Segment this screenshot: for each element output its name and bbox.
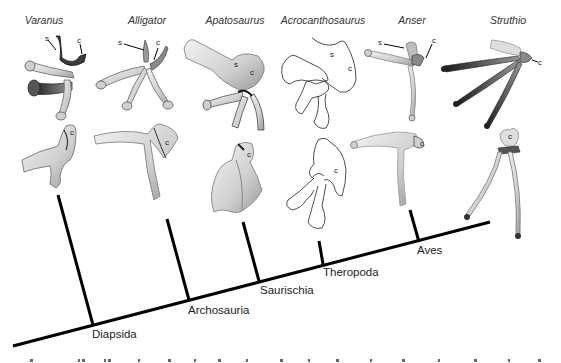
clade-label-theropoda: Theropoda	[323, 266, 379, 278]
branch-varanus	[58, 195, 93, 325]
specimen-struthio-upper	[441, 40, 538, 129]
specimen-varanus-lower	[22, 125, 76, 188]
label-coracoid-alligator-lower: c	[165, 138, 169, 147]
branch-acrocanthosaurus	[319, 241, 323, 264]
label-coracoid-anser: c	[432, 36, 436, 45]
label-coracoid-struthio: c	[538, 58, 542, 67]
label-scapula-anser: s	[378, 38, 382, 47]
specimen-anser-lower	[351, 132, 425, 206]
label-coracoid-acrocanthosaurus-lower: c	[334, 166, 338, 175]
specimen-apatosaurus-upper	[184, 40, 264, 130]
branch-anser	[410, 210, 419, 242]
clade-label-archosauria: Archosauria	[188, 304, 249, 316]
clade-label-aves: Aves	[417, 244, 442, 256]
specimen-varanus-upper	[25, 36, 86, 120]
label-coracoid-struthio-lower: c	[508, 132, 512, 141]
taxon-name-struthio: Struthio	[490, 14, 526, 26]
taxon-name-alligator: Alligator	[128, 14, 166, 26]
clade-label-diapsida: Diapsida	[92, 328, 137, 340]
label-coracoid-varanus-lower: c	[70, 128, 74, 137]
taxon-name-apatosaurus: Apatosaurus	[206, 14, 265, 26]
label-coracoid-varanus: c	[77, 36, 81, 45]
label-coracoid-alligator: c	[156, 38, 160, 47]
label-scapula-acrocanthosaurus: s	[330, 50, 334, 59]
label-coracoid-acrocanthosaurus: c	[348, 64, 352, 73]
label-scapula-alligator: s	[118, 38, 122, 47]
taxon-name-anser: Anser	[398, 14, 425, 26]
specimen-apatosaurus-lower	[211, 142, 262, 212]
clade-label-saurischia: Saurischia	[260, 284, 314, 296]
label-scapula-apatosaurus: s	[234, 60, 238, 69]
specimen-acrocanthosaurus-upper	[282, 38, 356, 128]
specimen-alligator-lower	[94, 124, 178, 200]
branch-apatosaurus	[243, 222, 259, 281]
label-coracoid-anser-lower: c	[420, 139, 424, 148]
figure-caption-cropped	[18, 352, 558, 362]
label-scapula-varanus: s	[45, 34, 49, 43]
specimen-alligator-upper	[96, 40, 173, 110]
phylogenetic-tree	[13, 195, 490, 346]
caption-glyph-tops	[18, 352, 558, 362]
taxon-name-varanus: Varanus	[25, 14, 64, 26]
specimen-anser-upper	[365, 42, 433, 121]
taxon-name-acrocanthosaurus: Acrocanthosaurus	[281, 14, 366, 26]
branch-alligator	[167, 219, 189, 300]
label-coracoid-apatosaurus-lower: c	[247, 150, 251, 159]
specimen-struthio-lower	[464, 128, 521, 239]
specimen-acrocanthosaurus-lower	[287, 138, 346, 228]
label-coracoid-apatosaurus: c	[250, 68, 254, 77]
